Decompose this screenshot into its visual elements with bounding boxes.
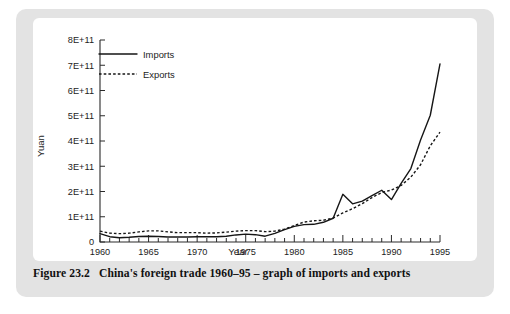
x-tick-label: 1970 [187, 247, 207, 257]
y-tick-label: 3E+11 [68, 162, 94, 172]
figure-caption-text: China's foreign trade 1960–95 – graph of… [99, 267, 410, 280]
legend-imports-label: Imports [143, 49, 175, 60]
y-tick-label: 5E+11 [68, 111, 94, 121]
y-tick-label: 7E+11 [68, 61, 94, 71]
x-tick-label: 1960 [90, 247, 110, 257]
series-line-imports [100, 64, 440, 238]
x-tick-label: 1995 [430, 247, 450, 257]
x-axis-ticks: 19601965197019751980198519901995 [90, 235, 450, 257]
series-line-exports [100, 132, 440, 234]
y-tick-label: 8E+11 [68, 35, 94, 45]
chart-series-group [100, 64, 440, 238]
y-tick-label: 2E+11 [68, 187, 94, 197]
y-tick-label: 4E+11 [68, 136, 94, 146]
x-tick-label: 1985 [333, 247, 353, 257]
x-tick-label: 1980 [284, 247, 304, 257]
x-tick-label: 1990 [381, 247, 401, 257]
chart-legend: Imports Exports [99, 49, 175, 80]
y-tick-label: 0 [89, 237, 94, 247]
y-axis-title: Yuan [35, 135, 46, 157]
y-tick-label: 6E+11 [68, 86, 94, 96]
y-tick-label: 1E+11 [68, 212, 94, 222]
legend-exports-label: Exports [143, 69, 175, 80]
x-tick-label: 1965 [138, 247, 158, 257]
x-axis-title: Year [228, 246, 248, 257]
figure-caption-number: Figure 23.2 [33, 267, 90, 280]
y-axis-ticks: 01E+112E+113E+114E+115E+116E+117E+118E+1… [68, 35, 105, 247]
figure-panel: 01E+112E+113E+114E+115E+116E+117E+118E+1… [16, 9, 494, 297]
chart-plot-card: 01E+112E+113E+114E+115E+116E+117E+118E+1… [33, 18, 477, 261]
figure-caption: Figure 23.2China's foreign trade 1960–95… [33, 267, 483, 280]
line-chart: 01E+112E+113E+114E+115E+116E+117E+118E+1… [33, 18, 477, 261]
